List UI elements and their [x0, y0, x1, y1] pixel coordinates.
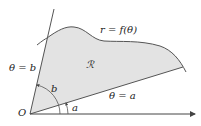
angle-arc-a: [66, 103, 68, 114]
ray-b-label: θ = b: [9, 63, 36, 73]
ray-a-label: θ = a: [109, 91, 136, 101]
curve-label: r = f(θ): [100, 25, 137, 35]
angle-a-label: a: [72, 103, 78, 113]
polar-region-diagram: r = f(θ) ℛ θ = b θ = a b a O: [0, 0, 201, 126]
region-label: ℛ: [86, 60, 94, 70]
angle-b-label: b: [51, 84, 57, 94]
origin-label: O: [18, 108, 26, 118]
region-r-fill: [30, 27, 183, 114]
